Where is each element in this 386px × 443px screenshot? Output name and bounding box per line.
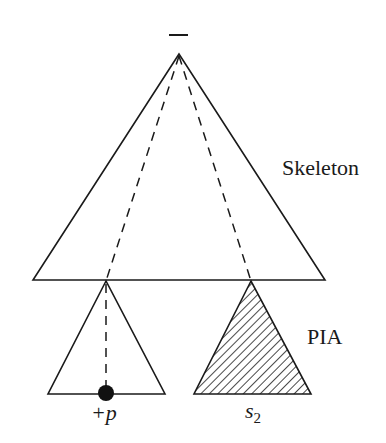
skeleton-label: Skeleton: [282, 155, 359, 180]
dashed-path-right: [179, 56, 251, 281]
plus-p-label: +p: [91, 400, 117, 425]
tree-diagram: Skeleton PIA +p s2: [0, 0, 386, 443]
marked-node-p: [98, 385, 114, 401]
s2-label: s2: [245, 398, 261, 426]
pia-label: PIA: [307, 324, 343, 349]
s2-label-subscript: 2: [254, 410, 262, 426]
dashed-path-left: [106, 56, 179, 281]
s2-label-base: s: [245, 398, 254, 423]
pia-subtree-triangle: [194, 281, 311, 394]
